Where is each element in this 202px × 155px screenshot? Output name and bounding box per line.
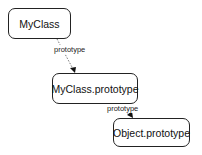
node-label: Object.prototype (113, 127, 190, 139)
node-label: MyClass (19, 18, 59, 30)
node-myclass-prototype[interactable]: MyClass.prototype (52, 73, 138, 104)
node-object-prototype[interactable]: Object.prototype (113, 118, 190, 147)
edge-label-prototype: prototype (53, 45, 86, 54)
node-myclass[interactable]: MyClass (8, 8, 71, 39)
node-label: MyClass.prototype (52, 83, 139, 95)
edge-label-prototype: prototype (106, 104, 139, 113)
